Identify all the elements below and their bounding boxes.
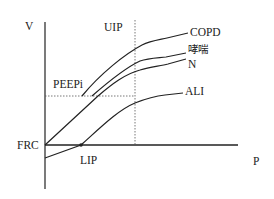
y-axis-label: V [25, 21, 33, 33]
pv-curve-diagram: V P FRC UIP LIP PEEPi COPD 哮喘 N ALI [0, 0, 274, 199]
lip-label: LIP [80, 155, 97, 167]
copd-label: COPD [190, 27, 221, 39]
ali-label: ALI [185, 86, 204, 98]
uip-label: UIP [104, 22, 123, 34]
normal-label: N [188, 59, 196, 71]
asthma-label: 哮喘 [188, 44, 208, 55]
frc-label: FRC [17, 140, 39, 152]
diagram-graphics [0, 0, 274, 199]
lip-point [79, 143, 83, 147]
curve-normal [45, 59, 186, 145]
x-axis-label: P [253, 156, 259, 168]
peepi-label: PEEPi [53, 79, 83, 91]
